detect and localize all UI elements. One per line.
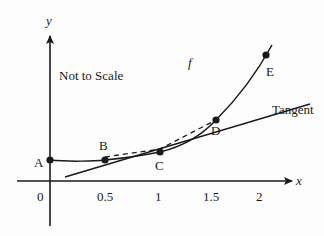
point-e-marker <box>262 51 269 58</box>
x-tick-1: 1 <box>155 189 162 204</box>
point-a-marker <box>46 156 53 163</box>
point-b-marker <box>101 156 108 163</box>
x-tick-0-5: 0.5 <box>97 189 113 204</box>
function-label: f <box>188 55 194 70</box>
point-a-label: A <box>34 155 44 170</box>
tangent-label: Tangent <box>272 102 314 117</box>
point-c-marker <box>156 148 163 155</box>
x-tick-0: 0 <box>37 189 44 204</box>
x-axis-label: x <box>295 173 302 188</box>
point-d-label: D <box>211 123 220 138</box>
point-b-label: B <box>99 138 108 153</box>
point-c-label: C <box>155 158 164 173</box>
point-e-label: E <box>266 64 274 79</box>
y-axis-label: y <box>44 13 52 28</box>
function-curve <box>50 45 272 161</box>
x-tick-2: 2 <box>256 189 263 204</box>
x-tick-1-5: 1.5 <box>203 189 219 204</box>
diagram-svg: A B C D E y x 0 0.5 1 1.5 2 Not to Scale… <box>0 0 324 236</box>
not-to-scale-note: Not to Scale <box>59 68 123 83</box>
diagram-canvas: A B C D E y x 0 0.5 1 1.5 2 Not to Scale… <box>0 0 324 236</box>
